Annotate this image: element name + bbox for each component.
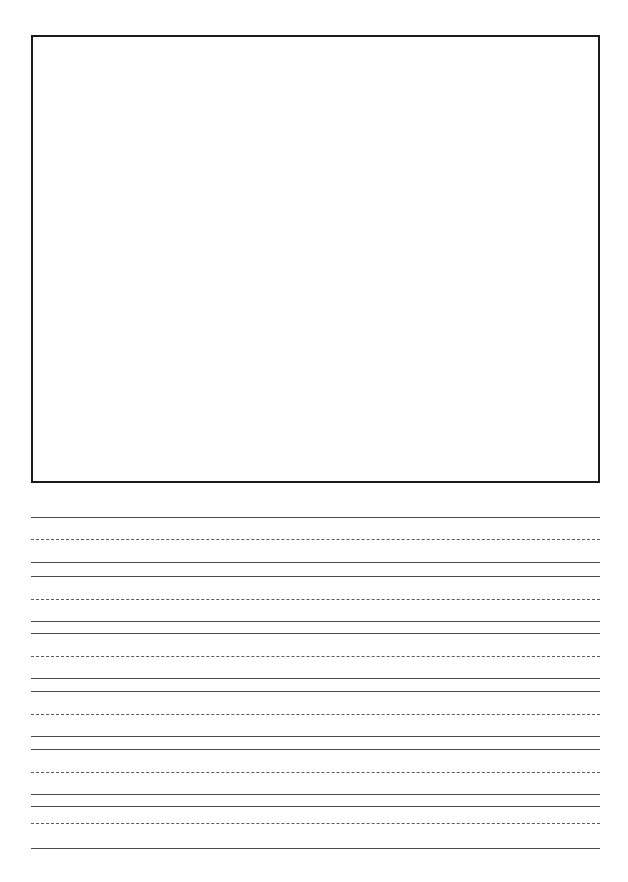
- writing-line-top-group-1: [31, 517, 600, 518]
- writing-line-middle-group-3: [31, 656, 600, 657]
- writing-line-top-group-2: [31, 576, 600, 577]
- writing-line-top-group-6: [31, 806, 600, 807]
- writing-line-baseline-group-1: [31, 562, 600, 563]
- writing-line-baseline-group-4: [31, 736, 600, 737]
- writing-line-baseline-group-2: [31, 621, 600, 622]
- writing-line-middle-group-4: [31, 714, 600, 715]
- writing-line-baseline-group-6: [31, 848, 600, 849]
- writing-line-baseline-group-3: [31, 678, 600, 679]
- writing-line-middle-group-2: [31, 599, 600, 600]
- writing-line-middle-group-5: [31, 772, 600, 773]
- writing-line-top-group-5: [31, 749, 600, 750]
- worksheet-page: [0, 0, 628, 882]
- writing-line-middle-group-1: [31, 539, 600, 540]
- writing-line-middle-group-6: [31, 823, 600, 824]
- writing-line-baseline-group-5: [31, 794, 600, 795]
- writing-line-top-group-3: [31, 633, 600, 634]
- illustration-box[interactable]: [31, 35, 600, 483]
- illustration-box-canvas[interactable]: [33, 37, 598, 481]
- writing-line-top-group-4: [31, 691, 600, 692]
